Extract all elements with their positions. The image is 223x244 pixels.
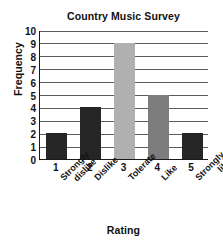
y-tick-label: 10 bbox=[6, 26, 36, 37]
y-tick-label: 4 bbox=[6, 103, 36, 114]
bar bbox=[148, 95, 169, 160]
x-tick-label: 3 bbox=[121, 162, 127, 173]
y-tick-label: 8 bbox=[6, 51, 36, 62]
x-axis-label: Rating bbox=[39, 224, 208, 236]
x-tick-label: 5 bbox=[188, 162, 194, 173]
x-axis-category-labels: StronglydislikeDislikeTolerateLikeStrong… bbox=[39, 176, 208, 222]
y-tick-label: 5 bbox=[6, 90, 36, 101]
plot-area bbox=[39, 31, 208, 160]
x-tick-label: 4 bbox=[155, 162, 161, 173]
y-tick-label: 9 bbox=[6, 38, 36, 49]
bar bbox=[114, 43, 135, 159]
y-tick-label: 7 bbox=[6, 64, 36, 75]
y-tick-label: 2 bbox=[6, 129, 36, 140]
bar bbox=[182, 133, 203, 159]
chart-title: Country Music Survey bbox=[39, 10, 208, 22]
x-tick-label: 1 bbox=[53, 162, 59, 173]
bar-series bbox=[40, 31, 208, 159]
y-tick-label: 1 bbox=[6, 142, 36, 153]
bar-chart-figure: Country Music Survey Frequency 012345678… bbox=[0, 0, 223, 244]
y-tick-label: 0 bbox=[6, 155, 36, 166]
y-tick-label: 6 bbox=[6, 77, 36, 88]
y-axis-tick-labels: 012345678910 bbox=[3, 31, 36, 160]
y-tick-label: 3 bbox=[6, 116, 36, 127]
bar bbox=[46, 133, 67, 159]
